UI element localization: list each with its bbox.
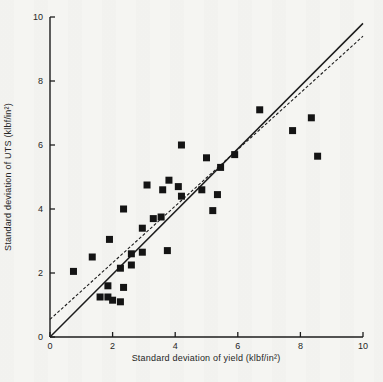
y-tick-label: 2 — [38, 268, 43, 278]
data-point — [106, 236, 113, 243]
data-point — [203, 154, 210, 161]
data-point — [209, 207, 216, 214]
data-point — [109, 297, 116, 304]
x-axis-ticks — [50, 332, 363, 337]
x-tick-label: 0 — [47, 341, 52, 351]
y-tick-label: 0 — [38, 332, 43, 342]
x-tick-label: 2 — [110, 341, 115, 351]
data-point — [120, 206, 127, 213]
y-tick-label: 8 — [38, 76, 43, 86]
data-point — [256, 106, 263, 113]
data-point — [314, 153, 321, 160]
data-point — [178, 142, 185, 149]
x-axis-title: Standard deviation of yield (klbf/in²) — [132, 353, 281, 363]
y-axis-ticks — [50, 17, 55, 337]
data-point — [70, 268, 77, 275]
y-axis-title: Standard deviation of UTS (klbf/in²) — [3, 103, 13, 251]
data-point — [175, 183, 182, 190]
x-axis-tick-labels: 0246810 — [47, 341, 368, 351]
data-point — [128, 262, 135, 269]
data-point — [117, 265, 124, 272]
data-point — [289, 127, 296, 134]
y-tick-label: 10 — [33, 12, 43, 22]
data-point — [165, 177, 172, 184]
data-point — [139, 249, 146, 256]
data-point — [214, 191, 221, 198]
data-point — [144, 182, 151, 189]
scatter-chart: 0246810 0246810 Standard deviation of yi… — [0, 0, 383, 382]
data-point — [139, 225, 146, 232]
y-axis-tick-labels: 0246810 — [33, 12, 43, 342]
data-point — [164, 247, 171, 254]
x-tick-label: 8 — [298, 341, 303, 351]
scanned-book-page: MECHANICAL RELIABILITY AND DESIGN 024681… — [0, 0, 383, 382]
y-tick-label: 6 — [38, 140, 43, 150]
data-point — [308, 114, 315, 121]
page-running-head: MECHANICAL RELIABILITY AND DESIGN — [0, 0, 383, 6]
data-point — [128, 250, 135, 257]
x-tick-label: 4 — [173, 341, 178, 351]
data-point — [104, 282, 111, 289]
data-point — [159, 186, 166, 193]
data-point — [158, 214, 165, 221]
x-tick-label: 6 — [235, 341, 240, 351]
data-point — [198, 186, 205, 193]
equality-line — [50, 23, 363, 337]
data-point — [97, 294, 104, 301]
y-tick-label: 4 — [38, 204, 43, 214]
data-point — [120, 284, 127, 291]
chart-lines — [50, 23, 363, 337]
data-point — [217, 164, 224, 171]
data-point — [150, 215, 157, 222]
data-point — [178, 193, 185, 200]
data-point — [231, 151, 238, 158]
data-point — [89, 254, 96, 261]
fit-line — [50, 36, 363, 319]
data-point — [117, 298, 124, 305]
x-tick-label: 10 — [358, 341, 368, 351]
chart-points — [70, 106, 321, 305]
